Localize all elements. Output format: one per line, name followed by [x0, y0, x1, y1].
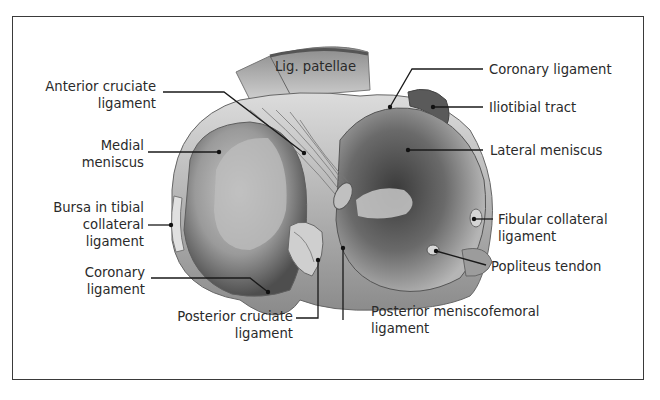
label-bursa-tibial-collateral-ligament: Bursa in tibial collateral ligament: [20, 199, 144, 250]
label-fibular-collateral-ligament: Fibular collateral ligament: [498, 211, 608, 245]
label-popliteus-tendon: Popliteus tendon: [491, 258, 601, 275]
label-coronary-ligament-medial: Coronary ligament: [60, 264, 145, 298]
label-anterior-cruciate-ligament: Anterior cruciate ligament: [30, 78, 156, 112]
label-coronary-ligament-lateral: Coronary ligament: [489, 61, 612, 78]
label-posterior-cruciate-ligament: Posterior cruciate ligament: [150, 308, 293, 342]
label-lig-patellae: Lig. patellae: [275, 58, 356, 75]
label-posterior-meniscofemoral-ligament: Posterior meniscofemoral ligament: [371, 303, 539, 337]
label-lateral-meniscus: Lateral meniscus: [490, 142, 602, 159]
label-medial-meniscus: Medial meniscus: [60, 137, 144, 171]
label-iliotibial-tract: Iliotibial tract: [489, 99, 576, 116]
fibular-collateral-ligament-shape: [470, 209, 482, 227]
